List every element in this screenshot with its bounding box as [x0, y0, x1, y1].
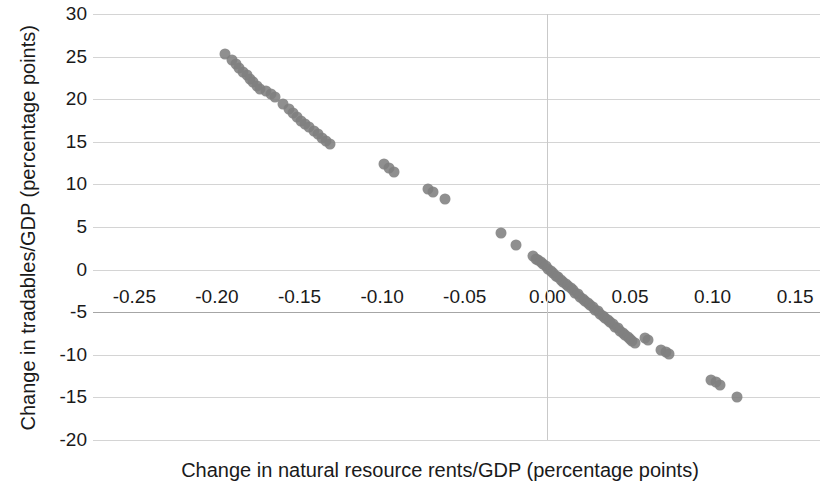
x-axis-tick-label: -0.05	[443, 286, 486, 308]
x-axis-tick-label: -0.25	[113, 286, 156, 308]
gridline-horizontal	[93, 397, 820, 398]
x-axis-tick-label: 0.10	[694, 286, 731, 308]
y-axis-tick-label: 30	[66, 3, 87, 25]
y-axis-tick-label: -10	[60, 344, 87, 366]
x-axis-title-text: Change in natural resource rents/GDP (pe…	[181, 459, 699, 482]
y-axis-tick-label: 5	[76, 216, 87, 238]
scatter-point	[732, 391, 743, 402]
y-axis-tick-label: 10	[66, 173, 87, 195]
plot-area: 302520151050-5-10-15-20 -0.25-0.20-0.15-…	[93, 14, 820, 440]
y-axis-tick-label: 20	[66, 88, 87, 110]
scatter-point	[428, 187, 439, 198]
scatter-point	[663, 348, 674, 359]
gridline-horizontal	[93, 355, 820, 356]
scatter-point	[496, 227, 507, 238]
gridline-horizontal	[93, 227, 820, 228]
x-axis-title: Change in natural resource rents/GDP (pe…	[60, 452, 820, 488]
x-axis-line	[93, 312, 820, 313]
y-axis-tick-label: -5	[70, 301, 87, 323]
x-axis-tick-label: 0.15	[777, 286, 814, 308]
gridline-horizontal	[93, 440, 820, 441]
y-axis-tick-labels: 302520151050-5-10-15-20	[0, 14, 87, 440]
gridline-horizontal	[93, 184, 820, 185]
y-axis-tick-label: 15	[66, 131, 87, 153]
gridline-horizontal	[93, 142, 820, 143]
scatter-point	[643, 335, 654, 346]
y-axis-tick-label: -15	[60, 386, 87, 408]
scatter-chart-figure: Change in tradables/GDP (percentage poin…	[0, 0, 831, 490]
scatter-point	[439, 193, 450, 204]
x-axis-tick-label: -0.20	[195, 286, 238, 308]
x-axis-tick-label: -0.10	[360, 286, 403, 308]
y-axis-tick-label: -20	[60, 429, 87, 451]
scatter-point	[388, 167, 399, 178]
scatter-point	[325, 139, 336, 150]
gridline-horizontal	[93, 57, 820, 58]
y-axis-tick-label: 25	[66, 46, 87, 68]
y-axis-line	[547, 14, 548, 440]
gridline-horizontal	[93, 99, 820, 100]
x-axis-tick-label: 0.05	[611, 286, 648, 308]
scatter-point	[715, 379, 726, 390]
gridline-horizontal	[93, 14, 820, 15]
y-axis-tick-label: 0	[76, 259, 87, 281]
x-axis-tick-label: -0.15	[278, 286, 321, 308]
scatter-point	[510, 239, 521, 250]
gridline-horizontal	[93, 270, 820, 271]
